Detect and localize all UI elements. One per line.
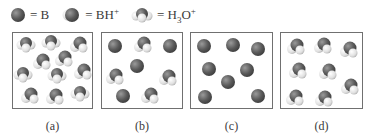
hydronium-icon (131, 7, 153, 23)
base-particle-icon (226, 38, 240, 52)
base-particle-icon (163, 39, 177, 53)
hydronium-particle-icon (14, 67, 33, 83)
base-particle-icon (198, 90, 212, 104)
panel-label-c: (c) (212, 119, 252, 134)
conjugate-acid-icon (61, 7, 81, 23)
hydronium-particle-icon (17, 37, 36, 53)
base-particle-icon (240, 63, 254, 77)
conjugate-acid-particle-icon (106, 69, 124, 85)
base-particle-icon (108, 39, 122, 53)
base-particle-icon (202, 62, 216, 76)
base-particle-icon (221, 75, 235, 89)
conjugate-acid-particle-icon (287, 39, 305, 55)
panel-label-b: (b) (122, 119, 162, 134)
conjugate-acid-particle-icon (314, 38, 332, 54)
conjugate-acid-particle-icon (315, 91, 333, 107)
legend-label-hydronium: = H3O+ (157, 6, 196, 25)
legend-item-base: = B (10, 7, 49, 23)
conjugate-acid-particle-icon (289, 63, 307, 79)
conjugate-acid-particle-icon (141, 88, 159, 104)
conjugate-acid-particle-icon (134, 37, 152, 53)
panel-a (12, 32, 93, 109)
conjugate-acid-particle-icon (21, 88, 39, 104)
legend-item-hydronium: = H3O+ (131, 6, 196, 25)
conjugate-acid-particle-icon (74, 64, 92, 80)
panel-b (101, 32, 183, 109)
panel-c (190, 32, 273, 109)
conjugate-acid-particle-icon (55, 51, 73, 67)
conjugate-acid-particle-icon (319, 64, 337, 80)
hydronium-particle-icon (48, 68, 67, 84)
legend-item-conjugate-acid: = BH+ (61, 6, 119, 23)
panel-label-a: (a) (33, 119, 73, 134)
hydronium-particle-icon (71, 86, 90, 102)
conjugate-acid-particle-icon (341, 79, 359, 95)
conjugate-acid-particle-icon (340, 42, 358, 58)
base-particle-icon (130, 59, 144, 73)
legend-label-conjugate-acid: = BH+ (85, 6, 119, 23)
conjugate-acid-particle-icon (286, 90, 304, 106)
conjugate-acid-particle-icon (33, 54, 51, 70)
base-sphere-icon (10, 7, 26, 23)
conjugate-acid-particle-icon (70, 37, 88, 53)
panel-d (280, 32, 363, 109)
base-particle-icon (116, 89, 130, 103)
base-particle-icon (251, 89, 265, 103)
conjugate-acid-particle-icon (159, 70, 177, 86)
legend: = B = BH+ = H3O+ (10, 5, 208, 25)
base-particle-icon (251, 42, 265, 56)
conjugate-acid-particle-icon (46, 89, 64, 105)
hydronium-particle-icon (42, 35, 61, 51)
panel-label-d: (d) (302, 119, 342, 134)
base-particle-icon (197, 39, 211, 53)
legend-label-base: = B (30, 7, 49, 23)
